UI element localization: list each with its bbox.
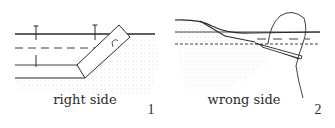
sewing-diagram: right side 1 wrong side 2 [0, 0, 335, 128]
panel-right-side [15, 25, 160, 95]
panel-number-1: 1 [148, 102, 155, 117]
caption-right-side: right side [53, 92, 117, 107]
caption-wrong-side: wrong side [208, 92, 281, 107]
fabric-stipple-lower [176, 44, 270, 90]
panel-wrong-side [175, 12, 320, 98]
panel-number-2: 2 [315, 102, 322, 117]
